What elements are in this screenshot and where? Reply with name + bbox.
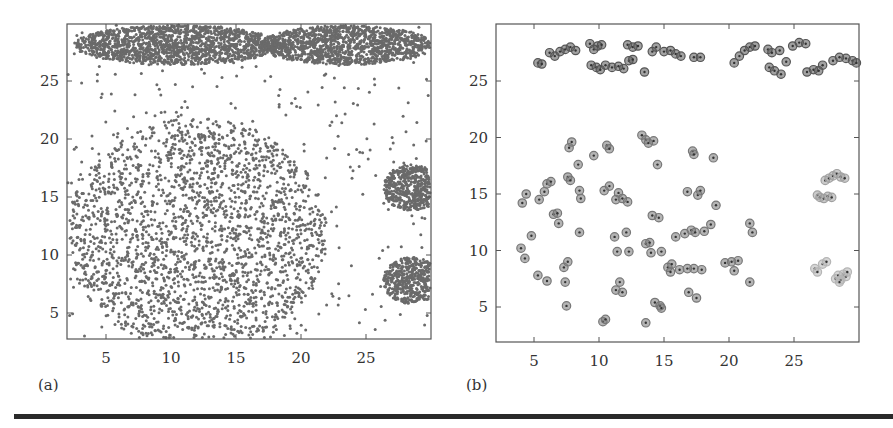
data-point-center (694, 231, 696, 233)
panel-b-points (517, 38, 861, 327)
data-point-center (578, 189, 580, 191)
data-point-center (567, 261, 569, 263)
data-point-center (604, 318, 606, 320)
data-point-center (663, 50, 665, 52)
data-point-center (678, 269, 680, 271)
data-point-center (568, 147, 570, 149)
data-point-center (845, 57, 847, 59)
data-point-center (580, 197, 582, 199)
y-tick-label: 10 (40, 246, 59, 264)
x-tick-label: 5 (101, 349, 111, 367)
data-point-center (611, 66, 613, 68)
y-tick-label: 10 (469, 242, 488, 260)
series-right-upper-cluster (813, 170, 849, 203)
series-disc-cluster (517, 131, 757, 327)
data-point-center (621, 197, 623, 199)
data-point-center (816, 271, 818, 273)
data-point-center (754, 45, 756, 47)
data-point-center (686, 191, 688, 193)
data-point-center (617, 192, 619, 194)
data-point-center (537, 274, 539, 276)
data-point-center (684, 232, 686, 234)
data-point-center (641, 134, 643, 136)
data-point-center (626, 201, 628, 203)
data-point-center (654, 301, 656, 303)
data-point-center (710, 223, 712, 225)
data-point-center (658, 217, 660, 219)
data-point-center (615, 198, 617, 200)
data-point-center (751, 231, 753, 233)
data-point-center (798, 41, 800, 43)
data-point-center (525, 193, 527, 195)
y-tick-label: 25 (469, 72, 488, 90)
data-point-center (651, 214, 653, 216)
data-point-center (564, 281, 566, 283)
data-point-center (558, 222, 560, 224)
y-tick-label: 5 (49, 304, 59, 322)
series-right-lower-cluster (811, 258, 852, 287)
data-point-center (738, 55, 740, 57)
data-point-center (650, 252, 652, 254)
data-point-center (637, 45, 639, 47)
data-point-center (649, 241, 651, 243)
y-tick-label: 5 (478, 298, 488, 316)
data-point-center (737, 260, 739, 262)
data-point-center (660, 250, 662, 252)
data-point-center (655, 46, 657, 48)
data-point-center (805, 43, 807, 45)
data-point-center (846, 271, 848, 273)
data-point-center (538, 198, 540, 200)
x-tick-label: 10 (161, 349, 180, 367)
data-point-center (569, 46, 571, 48)
data-point-center (613, 236, 615, 238)
data-point-center (675, 236, 677, 238)
x-tick-label: 15 (654, 352, 673, 370)
data-point-center (569, 179, 571, 181)
data-point-center (693, 267, 695, 269)
data-point-center (701, 269, 703, 271)
data-point-center (693, 56, 695, 58)
data-point-center (699, 56, 701, 58)
data-point-center (838, 281, 840, 283)
data-point-center (855, 62, 857, 64)
data-point-center (724, 262, 726, 264)
y-tick-label: 20 (40, 130, 59, 148)
data-point-center (695, 297, 697, 299)
data-point-center (733, 270, 735, 272)
y-tick-label: 20 (469, 129, 488, 147)
data-point-center (825, 261, 827, 263)
figure: 510152025510152025 (a) 51015202551015202… (0, 0, 893, 428)
data-point-center (556, 212, 558, 214)
x-tick-label: 10 (589, 352, 608, 370)
x-tick-label: 20 (719, 352, 738, 370)
data-point-center (608, 148, 610, 150)
data-point-center (621, 291, 623, 293)
data-point-center (671, 263, 673, 265)
data-point-center (521, 202, 523, 204)
data-point-center (530, 235, 532, 237)
data-point-center (550, 180, 552, 182)
data-point-center (669, 271, 671, 273)
data-point-center (554, 55, 556, 57)
data-point-center (615, 289, 617, 291)
data-point-center (577, 163, 579, 165)
data-point-center (743, 49, 745, 51)
panel-a-label: (a) (38, 376, 59, 394)
data-point-center (838, 56, 840, 58)
x-tick-label: 5 (529, 352, 539, 370)
data-point-center (730, 261, 732, 263)
data-point-center (625, 231, 627, 233)
panel-a-scatter-plot: 510152025510152025 (a) (38, 24, 432, 394)
data-point-center (593, 154, 595, 156)
data-point-center (546, 280, 548, 282)
data-point-center (749, 222, 751, 224)
data-point-center (652, 140, 654, 142)
data-point-center (773, 70, 775, 72)
data-point-center (604, 64, 606, 66)
data-point-center (623, 67, 625, 69)
data-point-center (749, 281, 751, 283)
data-point-center (632, 58, 634, 60)
data-point-center (589, 43, 591, 45)
data-point-center (616, 250, 618, 252)
data-point-center (603, 189, 605, 191)
